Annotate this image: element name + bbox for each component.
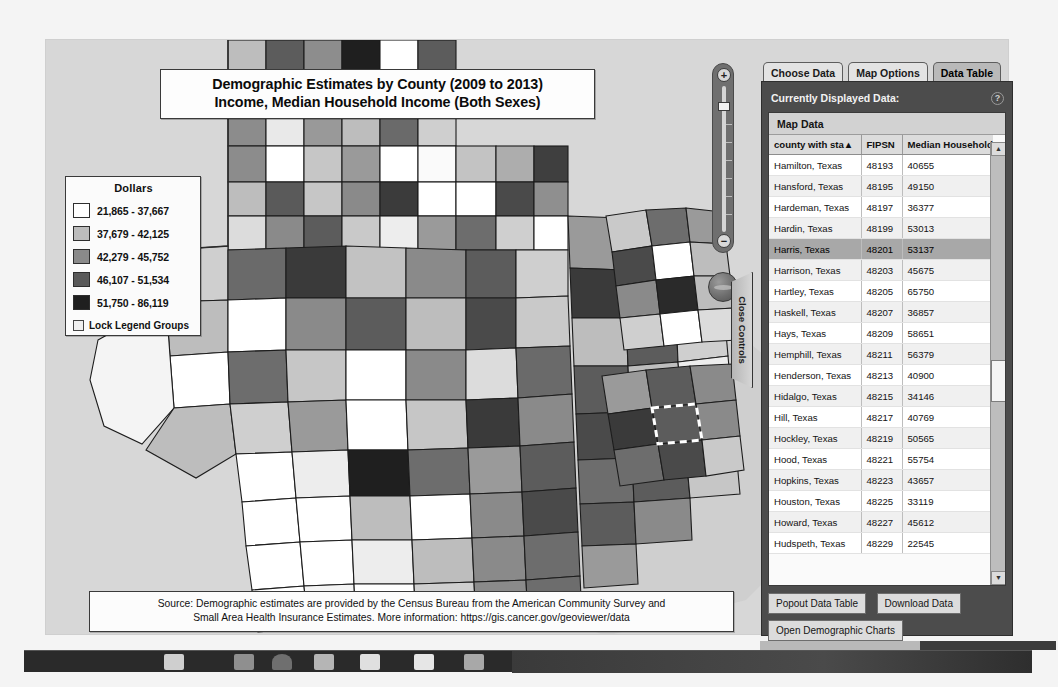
cell-median-household-income: 43657 [902, 470, 993, 491]
scroll-up-button[interactable]: ▲ [991, 142, 1006, 156]
legend-label-2: 37,679 - 42,125 [97, 228, 169, 240]
cell-county: Hardin, Texas [769, 218, 861, 239]
legend-item[interactable]: 46,107 - 51,534 [73, 268, 194, 291]
panel-tab-bar: Choose Data Map Options Data Table [761, 58, 1013, 82]
cell-county: Hays, Texas [769, 323, 861, 344]
cell-median-household-income: 58651 [902, 323, 993, 344]
cell-median-household-income: 49150 [902, 176, 993, 197]
tab-data-table[interactable]: Data Table [933, 62, 1001, 82]
table-row[interactable]: Hood, Texas4822155754 [769, 449, 993, 470]
data-panel: Choose Data Map Options Data Table Curre… [761, 58, 1013, 636]
cell-fipsn: 48223 [861, 470, 902, 491]
legend-label-5: 51,750 - 86,119 [97, 297, 168, 309]
zoom-slider-handle[interactable] [718, 102, 730, 111]
table-row[interactable]: Hemphill, Texas4821156379 [769, 344, 993, 365]
data-table[interactable]: county with sta▲ FIPSN Median Household … [769, 135, 993, 554]
cell-median-household-income: 40769 [902, 407, 993, 428]
table-scrollbar[interactable]: ▲ ▼ [990, 142, 1005, 585]
zoom-tick [726, 196, 732, 197]
legend-item[interactable]: 21,865 - 37,667 [73, 199, 194, 222]
taskbar-right-strip [512, 651, 1032, 673]
legend-item[interactable]: 51,750 - 86,119 [73, 291, 194, 314]
data-table-container[interactable]: Map Data county with sta▲ FIPSN Median H… [768, 112, 1006, 586]
download-data-button[interactable]: Download Data [877, 593, 961, 614]
cell-median-household-income: 36377 [902, 197, 993, 218]
zoom-in-button[interactable]: + [717, 68, 731, 82]
table-row[interactable]: Hansford, Texas4819549150 [769, 176, 993, 197]
table-row[interactable]: Hudspeth, Texas4822922545 [769, 533, 993, 554]
legend-swatch-4 [73, 272, 90, 287]
table-row[interactable]: Harrison, Texas4820345675 [769, 260, 993, 281]
cell-county: Hockley, Texas [769, 428, 861, 449]
legend-item[interactable]: 42,279 - 45,752 [73, 245, 194, 268]
open-demographic-charts-button[interactable]: Open Demographic Charts [768, 620, 903, 641]
cell-fipsn: 48195 [861, 176, 902, 197]
map-title-box: Demographic Estimates by County (2009 to… [160, 69, 595, 119]
column-header-median-household-income[interactable]: Median Household In [902, 135, 993, 155]
cell-county: Henderson, Texas [769, 365, 861, 386]
column-header-county[interactable]: county with sta▲ [769, 135, 861, 155]
column-header-fipsn[interactable]: FIPSN [861, 135, 902, 155]
lock-legend-groups-row[interactable]: Lock Legend Groups [73, 318, 194, 331]
table-row[interactable]: Hartley, Texas4820565750 [769, 281, 993, 302]
map-legend: Dollars 21,865 - 37,667 37,679 - 42,125 … [65, 176, 201, 336]
cell-county: Hardeman, Texas [769, 197, 861, 218]
panel-button-group: Popout Data Table Download Data Open Dem… [768, 593, 1006, 647]
table-row[interactable]: Hidalgo, Texas4821534146 [769, 386, 993, 407]
scroll-down-button[interactable]: ▼ [991, 571, 1006, 585]
panel-body: Currently Displayed Data: ? Map Data cou… [761, 81, 1013, 636]
zoom-slider-track[interactable]: + − [712, 63, 734, 253]
cell-county: Hopkins, Texas [769, 470, 861, 491]
popout-data-table-button[interactable]: Popout Data Table [768, 593, 866, 614]
table-row[interactable]: Hardin, Texas4819953013 [769, 218, 993, 239]
zoom-control[interactable]: + − [712, 63, 738, 253]
taskbar-app-icon[interactable] [234, 654, 254, 670]
panel-header: Currently Displayed Data: ? [768, 88, 1006, 108]
tab-choose-data[interactable]: Choose Data [763, 62, 843, 82]
taskbar-app-icon[interactable] [414, 654, 434, 670]
scrollbar-thumb[interactable] [991, 360, 1006, 402]
table-row[interactable]: Hopkins, Texas4822343657 [769, 470, 993, 491]
taskbar-app-icon[interactable] [164, 654, 184, 670]
taskbar-app-icon[interactable] [272, 654, 292, 670]
cell-median-household-income: 53013 [902, 218, 993, 239]
source-line-1: Source: Demographic estimates are provid… [98, 597, 725, 611]
taskbar-app-icon[interactable] [314, 654, 334, 670]
cell-fipsn: 48219 [861, 428, 902, 449]
cell-county: Hartley, Texas [769, 281, 861, 302]
cell-fipsn: 48225 [861, 491, 902, 512]
table-row[interactable]: Hill, Texas4821740769 [769, 407, 993, 428]
map-source-box: Source: Demographic estimates are provid… [89, 591, 734, 632]
zoom-out-button[interactable]: − [717, 234, 731, 248]
table-row[interactable]: Harris, Texas4820153137 [769, 239, 993, 260]
legend-swatch-2 [73, 226, 90, 241]
table-row[interactable]: Hardeman, Texas4819736377 [769, 197, 993, 218]
lock-legend-checkbox[interactable] [73, 320, 84, 331]
table-row[interactable]: Haskell, Texas4820736857 [769, 302, 993, 323]
taskbar-app-icon[interactable] [464, 654, 484, 670]
cell-median-household-income: 45612 [902, 512, 993, 533]
close-controls-tab[interactable]: Close Controls [731, 272, 753, 388]
taskbar[interactable] [24, 650, 1032, 672]
help-icon[interactable]: ? [991, 92, 1004, 105]
cell-fipsn: 48207 [861, 302, 902, 323]
table-row[interactable]: Hamilton, Texas4819340655 [769, 155, 993, 176]
taskbar-app-icon[interactable] [360, 654, 380, 670]
cell-median-household-income: 65750 [902, 281, 993, 302]
table-row[interactable]: Henderson, Texas4821340900 [769, 365, 993, 386]
cell-fipsn: 48229 [861, 533, 902, 554]
tab-map-options[interactable]: Map Options [848, 62, 928, 82]
cell-fipsn: 48197 [861, 197, 902, 218]
zoom-tick [726, 124, 732, 125]
table-row[interactable]: Houston, Texas4822533119 [769, 491, 993, 512]
map-title-line-2: Income, Median Household Income (Both Se… [171, 94, 584, 112]
legend-item[interactable]: 37,679 - 42,125 [73, 222, 194, 245]
lock-legend-label: Lock Legend Groups [89, 320, 189, 331]
close-controls-label: Close Controls [737, 296, 748, 364]
table-row[interactable]: Hays, Texas4820958651 [769, 323, 993, 344]
cell-fipsn: 48213 [861, 365, 902, 386]
cell-fipsn: 48217 [861, 407, 902, 428]
table-row[interactable]: Hockley, Texas4821950565 [769, 428, 993, 449]
legend-swatch-1 [73, 203, 90, 218]
table-row[interactable]: Howard, Texas4822745612 [769, 512, 993, 533]
